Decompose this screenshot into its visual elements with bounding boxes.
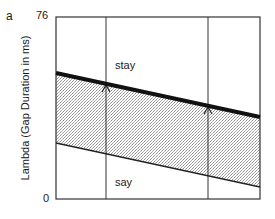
- say-label: say: [115, 176, 133, 188]
- plot-area: stay say: [0, 0, 275, 219]
- stippled-region: [56, 73, 260, 187]
- stay-label: stay: [115, 59, 136, 71]
